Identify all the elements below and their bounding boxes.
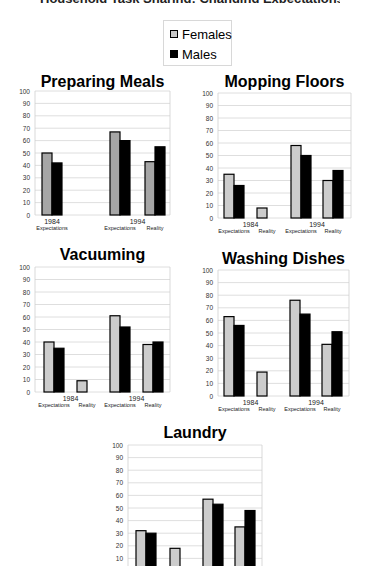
y-tick-label: 60 [116,492,124,499]
y-tick-label: 90 [116,454,124,461]
bar-females [235,527,245,566]
y-tick-label: 70 [116,479,124,486]
bar-males [213,504,223,566]
bar-females [136,531,146,566]
bar-males [146,533,156,566]
y-tick-label: 10 [116,555,124,562]
y-tick-label: 30 [116,530,124,537]
bar-females [170,548,180,566]
y-tick-label: 40 [116,517,124,524]
chart-title: Laundry [163,424,226,441]
y-tick-label: 80 [116,467,124,474]
bar-females [203,499,213,566]
bar-males [245,511,255,566]
y-tick-label: 50 [116,505,124,512]
y-tick-label: 100 [112,442,123,449]
y-tick-label: 20 [116,542,124,549]
